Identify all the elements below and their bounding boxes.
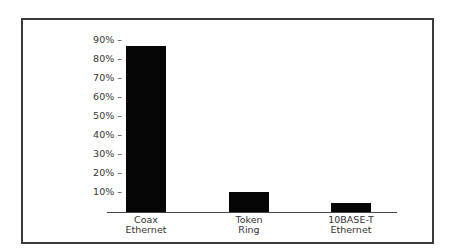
x-category-label: 10BASE-TEthernet [306, 215, 396, 235]
y-tick-label: 30% – [62, 148, 122, 160]
x-category-label: CoaxEthernet [101, 215, 191, 235]
bar [331, 203, 371, 212]
bar [229, 192, 269, 212]
x-category-label: TokenRing [204, 215, 294, 235]
y-tick-label: 50% – [62, 110, 122, 122]
y-tick-label: 70% – [62, 72, 122, 84]
y-tick-label: 90% – [62, 34, 122, 46]
bar [126, 46, 166, 212]
y-tick-label: 60% – [62, 91, 122, 103]
y-tick-label: 10% – [62, 186, 122, 198]
x-axis-baseline [107, 212, 397, 213]
y-tick-label: 40% – [62, 129, 122, 141]
y-tick-label: 20% – [62, 167, 122, 179]
y-tick-label: 80% – [62, 53, 122, 65]
